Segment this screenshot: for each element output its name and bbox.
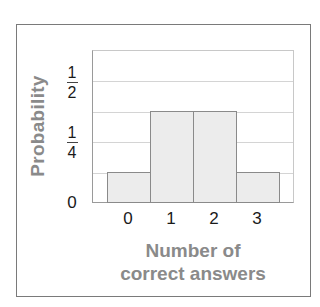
plot-area	[92, 50, 294, 203]
fraction-bar	[67, 142, 78, 143]
bar-2	[193, 111, 237, 203]
y-tick-numerator: 1	[68, 124, 77, 141]
bar-3	[236, 172, 280, 203]
bar-1	[150, 111, 194, 203]
fraction-bar	[67, 82, 78, 83]
y-tick-one-quarter: 1 4	[62, 124, 82, 161]
gridline	[93, 81, 293, 82]
x-tick-2: 2	[204, 209, 224, 229]
y-tick-one-half: 1 2	[62, 64, 82, 101]
bar-0	[107, 172, 151, 203]
x-tick-3: 3	[247, 209, 267, 229]
y-axis-title: Probability	[27, 75, 49, 176]
y-tick-denominator: 2	[68, 84, 77, 101]
y-tick-zero: 0	[62, 193, 82, 213]
x-tick-1: 1	[161, 209, 181, 229]
x-tick-0: 0	[118, 209, 138, 229]
x-axis-title-line-2: correct answers	[92, 262, 294, 285]
y-tick-numerator: 1	[68, 64, 77, 81]
y-tick-denominator: 4	[68, 144, 77, 161]
x-axis-title-line-1: Number of	[92, 239, 294, 262]
